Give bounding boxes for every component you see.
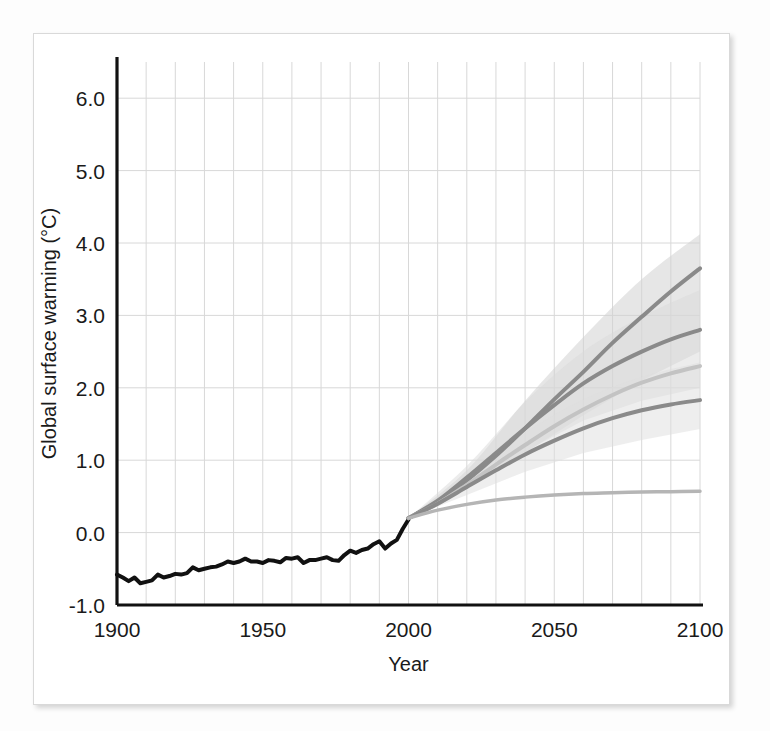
y-tick-label: 2.0 [76,377,105,400]
y-tick-label: 0.0 [76,522,105,545]
y-tick-label: -1.0 [69,594,105,617]
y-tick-label: 6.0 [76,87,105,110]
x-tick-label: 1950 [239,618,286,641]
warming-projection-chart: -1.00.01.02.03.04.05.06.0190019502000205… [0,0,770,731]
chart-container: -1.00.01.02.03.04.05.06.0190019502000205… [0,0,770,731]
x-tick-label: 2000 [385,618,432,641]
y-axis-title: Global surface warming (°C) [38,208,60,459]
y-tick-label: 4.0 [76,232,105,255]
y-tick-label: 5.0 [76,160,105,183]
figure-page: -1.00.01.02.03.04.05.06.0190019502000205… [0,0,770,731]
y-tick-label: 3.0 [76,304,105,327]
x-tick-label: 2100 [677,618,724,641]
x-axis-title: Year [388,653,429,675]
y-tick-label: 1.0 [76,449,105,472]
x-tick-label: 2050 [531,618,578,641]
x-tick-label: 1900 [94,618,141,641]
